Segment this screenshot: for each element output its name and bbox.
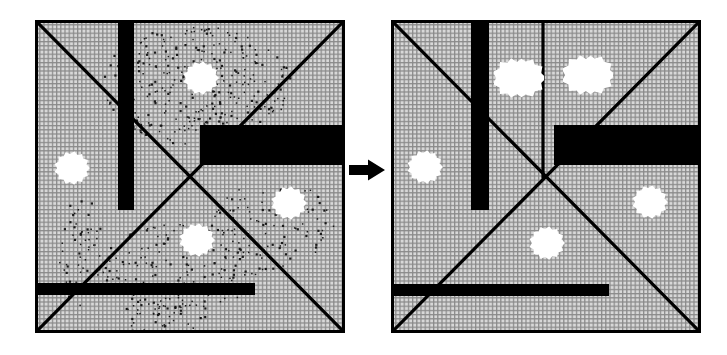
label-t4-bubble: [178, 221, 216, 259]
label-t3-bubble: [53, 149, 91, 187]
label-t1-bubble: [270, 184, 308, 222]
right-block: [554, 125, 701, 165]
label-t22-bubble: [563, 55, 613, 95]
right-arrow-icon: [349, 159, 385, 181]
vertical-bar: [118, 20, 134, 210]
right-block: [200, 125, 345, 165]
label-t4-bubble: [528, 224, 566, 262]
vertical-bar: [471, 20, 489, 210]
bottom-bar: [391, 284, 609, 296]
label-t1-bubble: [631, 183, 669, 221]
label-t21-bubble: [494, 58, 544, 98]
figure-canvas: T2T3T1T4T21T22T3T1T4: [0, 0, 727, 355]
label-t2-bubble: [182, 59, 220, 97]
bottom-bar: [35, 283, 255, 295]
label-t3-bubble: [406, 148, 444, 186]
